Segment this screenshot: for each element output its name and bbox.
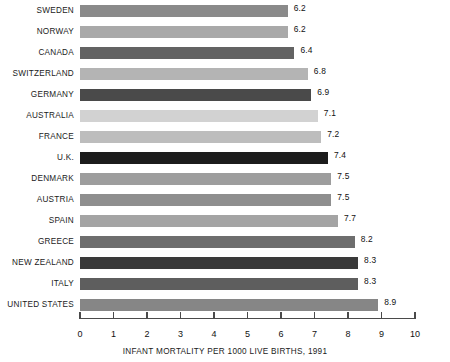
x-axis-tick-label: 0 (70, 329, 90, 339)
bar-value-label: 6.9 (317, 87, 329, 97)
bar (80, 257, 358, 269)
bar (80, 26, 288, 38)
bar-row: SWITZERLAND6.8 (0, 63, 450, 84)
bar-fill (80, 299, 378, 311)
x-axis-tick (247, 312, 248, 319)
bar-row: AUSTRIA7.5 (0, 189, 450, 210)
chart-plot-area: SWEDEN6.2NORWAY6.2CANADA6.4SWITZERLAND6.… (0, 0, 450, 311)
bar-value-label: 8.3 (364, 276, 376, 286)
x-axis-tick-label: 2 (137, 329, 157, 339)
category-label: UNITED STATES (0, 300, 74, 310)
bar-value-label: 7.2 (327, 129, 339, 139)
category-label: U.K. (0, 153, 74, 163)
bar (80, 131, 321, 143)
bar-fill (80, 194, 331, 206)
bar-value-label: 8.2 (361, 234, 373, 244)
bar (80, 173, 331, 185)
x-axis-tick-label: 3 (171, 329, 191, 339)
bar-fill (80, 5, 288, 17)
category-label: SPAIN (0, 216, 74, 226)
bar-fill (80, 47, 294, 59)
bar-value-label: 6.4 (300, 45, 312, 55)
category-label: SWITZERLAND (0, 69, 74, 79)
bar-value-label: 8.3 (364, 255, 376, 265)
bar (80, 110, 318, 122)
category-label: ITALY (0, 279, 74, 289)
bar-row: ITALY8.3 (0, 273, 450, 294)
bar-value-label: 7.5 (337, 192, 349, 202)
bar-row: GREECE8.2 (0, 231, 450, 252)
bar-value-label: 7.1 (324, 108, 336, 118)
bar-fill (80, 215, 338, 227)
x-axis-title: INFANT MORTALITY PER 1000 LIVE BIRTHS, 1… (0, 347, 450, 356)
bar-row: FRANCE7.2 (0, 126, 450, 147)
x-axis-tick-label: 5 (238, 329, 258, 339)
bar-fill (80, 152, 328, 164)
bar-value-label: 7.7 (344, 213, 356, 223)
bar-fill (80, 68, 308, 80)
category-label: GREECE (0, 237, 74, 247)
x-axis-tick (414, 312, 415, 319)
bar-fill (80, 278, 358, 290)
bar-row: GERMANY6.9 (0, 84, 450, 105)
category-label: AUSTRALIA (0, 111, 74, 121)
category-label: GERMANY (0, 90, 74, 100)
bar-value-label: 6.8 (314, 66, 326, 76)
bar-row: AUSTRALIA7.1 (0, 105, 450, 126)
x-axis-tick (113, 312, 114, 319)
bar-value-label: 7.4 (334, 150, 346, 160)
bar-row: CANADA6.4 (0, 42, 450, 63)
bar-fill (80, 131, 321, 143)
bar-row: UNITED STATES8.9 (0, 294, 450, 315)
bar-value-label: 7.5 (337, 171, 349, 181)
bar-fill (80, 173, 331, 185)
x-axis-tick (280, 312, 281, 319)
x-axis-tick-label: 7 (305, 329, 325, 339)
bar-fill (80, 236, 355, 248)
bar (80, 194, 331, 206)
category-label: AUSTRIA (0, 195, 74, 205)
bar-fill (80, 110, 318, 122)
bar (80, 215, 338, 227)
x-axis-tick-label: 4 (204, 329, 224, 339)
bar-row: SPAIN7.7 (0, 210, 450, 231)
category-label: SWEDEN (0, 6, 74, 16)
category-label: DENMARK (0, 174, 74, 184)
bar-value-label: 8.9 (384, 297, 396, 307)
bar-fill (80, 257, 358, 269)
bar (80, 47, 294, 59)
x-axis-tick-label: 8 (338, 329, 358, 339)
bar (80, 236, 355, 248)
bar-fill (80, 89, 311, 101)
category-label: NEW ZEALAND (0, 258, 74, 268)
bar (80, 89, 311, 101)
bar-row: NEW ZEALAND8.3 (0, 252, 450, 273)
x-axis-tick (79, 312, 80, 319)
bar-chart: SWEDEN6.2NORWAY6.2CANADA6.4SWITZERLAND6.… (0, 0, 450, 362)
x-axis-tick (180, 312, 181, 319)
x-axis-tick (146, 312, 147, 319)
x-axis-tick (314, 312, 315, 319)
bar (80, 68, 308, 80)
x-axis-tick-label: 6 (271, 329, 291, 339)
bar-fill (80, 26, 288, 38)
bar-value-label: 6.2 (294, 3, 306, 13)
bar-row: DENMARK7.5 (0, 168, 450, 189)
category-label: NORWAY (0, 27, 74, 37)
bar-row: SWEDEN6.2 (0, 0, 450, 21)
bar (80, 152, 328, 164)
category-label: CANADA (0, 48, 74, 58)
x-axis-tick (347, 312, 348, 319)
bar (80, 5, 288, 17)
x-axis-tick (213, 312, 214, 319)
x-axis-tick (381, 312, 382, 319)
x-axis-tick-label: 1 (104, 329, 124, 339)
bar-row: U.K.7.4 (0, 147, 450, 168)
x-axis-tick-label: 9 (372, 329, 392, 339)
bar-value-label: 6.2 (294, 24, 306, 34)
x-axis-tick-label: 10 (405, 329, 425, 339)
bar-row: NORWAY6.2 (0, 21, 450, 42)
bar (80, 278, 358, 290)
bar (80, 299, 378, 311)
category-label: FRANCE (0, 132, 74, 142)
